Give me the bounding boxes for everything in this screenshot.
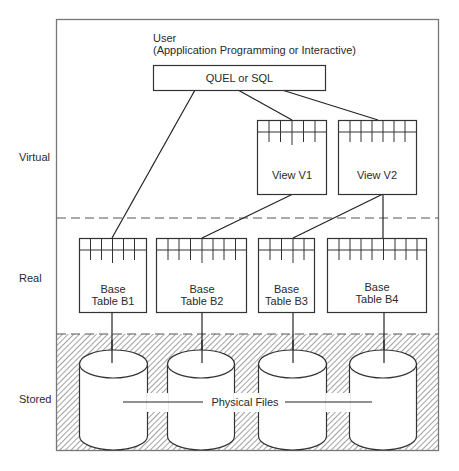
user-subtitle: (Appplication Programming or Interactive… xyxy=(153,44,356,56)
query-language-box: QUEL or SQL xyxy=(154,66,326,91)
view-v2: View V2 xyxy=(339,121,417,195)
query-language-label: QUEL or SQL xyxy=(206,72,273,84)
base-table-b1-line2: Table B1 xyxy=(92,295,135,307)
view-v1-label: View V1 xyxy=(272,169,312,181)
base-table-b3-line1: Base xyxy=(274,283,299,295)
physical-files-label: Physical Files xyxy=(211,396,279,408)
physical-file-1 xyxy=(80,340,148,450)
view-v2-label: View V2 xyxy=(357,169,397,181)
base-table-b4-line1: Base xyxy=(364,281,389,293)
base-table-b3-line2: Table B3 xyxy=(265,295,308,307)
layer-label-real: Real xyxy=(19,272,42,284)
view-v1: View V1 xyxy=(258,121,327,195)
base-table-b4: Base Table B4 xyxy=(328,239,427,313)
physical-file-3 xyxy=(259,340,327,450)
base-table-b2-line1: Base xyxy=(189,283,214,295)
base-table-b4-line2: Table B4 xyxy=(356,293,399,305)
user-title: User xyxy=(153,32,177,44)
base-table-b2-line2: Table B2 xyxy=(181,295,224,307)
base-table-b3: Base Table B3 xyxy=(259,239,315,313)
base-table-b1: Base Table B1 xyxy=(80,239,147,313)
architecture-diagram: Virtual Real Stored User (Appplication P… xyxy=(0,0,459,471)
layer-label-stored: Stored xyxy=(19,393,51,405)
base-table-b2: Base Table B2 xyxy=(157,239,247,313)
physical-file-2 xyxy=(168,340,235,450)
layer-label-virtual: Virtual xyxy=(19,151,50,163)
base-table-b1-line1: Base xyxy=(100,283,125,295)
physical-file-4 xyxy=(350,340,417,450)
